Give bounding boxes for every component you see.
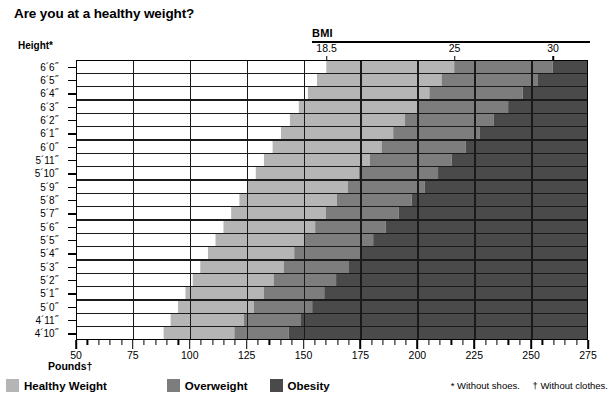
gridline-horizontal bbox=[76, 99, 588, 101]
legend-label: Healthy Weight bbox=[24, 380, 107, 392]
y-axis-label: 5´0˝ bbox=[40, 301, 58, 312]
x-axis-tick-major bbox=[132, 340, 134, 349]
y-axis-labels: 6´6˝6´5˝6´4˝6´3˝6´2˝6´1˝6´0˝5´11˝5´10˝5´… bbox=[0, 0, 72, 400]
y-axis-label: 5´4˝ bbox=[40, 248, 58, 259]
legend-label: Overweight bbox=[185, 380, 248, 392]
x-axis-tick-major bbox=[303, 340, 305, 349]
x-axis-tick-minor bbox=[542, 340, 543, 345]
y-axis-label: 6´2˝ bbox=[40, 115, 58, 126]
gridline-horizontal bbox=[76, 286, 588, 288]
x-axis-tick-minor bbox=[519, 340, 520, 345]
y-axis-tick bbox=[68, 280, 76, 281]
x-axis-tick-minor bbox=[166, 340, 167, 345]
y-axis-label: 6´3˝ bbox=[40, 101, 58, 112]
x-axis-tick-minor bbox=[383, 340, 384, 345]
y-axis-label: 6´6˝ bbox=[40, 61, 58, 72]
legend-item: Healthy Weight bbox=[6, 379, 107, 392]
x-axis-tick-major bbox=[75, 340, 77, 349]
y-axis-label: 5´1˝ bbox=[40, 288, 58, 299]
gridline-vertical bbox=[417, 60, 419, 340]
x-axis-label: 125 bbox=[238, 349, 256, 361]
y-axis-tick bbox=[68, 320, 76, 321]
x-axis-tick-minor bbox=[87, 340, 88, 345]
y-axis-tick bbox=[68, 93, 76, 94]
y-axis-label: 5´8˝ bbox=[40, 195, 58, 206]
x-axis-tick-minor bbox=[269, 340, 270, 345]
x-axis-tick-minor bbox=[496, 340, 497, 345]
legend-swatch bbox=[6, 379, 19, 392]
y-axis-tick bbox=[68, 253, 76, 254]
gridline-vertical bbox=[360, 60, 362, 340]
gridline-horizontal bbox=[76, 153, 588, 155]
x-axis-tick-major bbox=[189, 340, 191, 349]
x-axis-tick-minor bbox=[292, 340, 293, 345]
x-axis-tick-major bbox=[417, 340, 419, 349]
x-axis-tick-minor bbox=[337, 340, 338, 345]
y-axis-label: 6´0˝ bbox=[40, 141, 58, 152]
gridline-vertical bbox=[190, 60, 192, 340]
x-axis-tick-minor bbox=[212, 340, 213, 345]
y-axis-tick bbox=[68, 173, 76, 174]
x-axis-label: 200 bbox=[409, 349, 427, 361]
y-axis-tick bbox=[68, 333, 76, 334]
x-axis-tick-minor bbox=[178, 340, 179, 345]
gridline-horizontal bbox=[76, 259, 588, 261]
legend-item: Obesity bbox=[270, 379, 330, 392]
y-axis-tick bbox=[68, 67, 76, 68]
footnote-shoes: * Without shoes. bbox=[451, 380, 520, 391]
x-axis-label: 75 bbox=[127, 349, 139, 361]
bmi-bands bbox=[76, 60, 588, 340]
y-axis-label: 5´11˝ bbox=[35, 155, 58, 166]
y-axis-label: 5´10˝ bbox=[35, 168, 58, 179]
gridline-horizontal bbox=[76, 206, 588, 208]
x-axis-tick-minor bbox=[348, 340, 349, 345]
legend-swatch bbox=[270, 379, 283, 392]
chart-legend: Healthy WeightOverweightObesity bbox=[6, 379, 356, 392]
gridline-horizontal bbox=[76, 326, 588, 328]
gridline-horizontal bbox=[76, 193, 588, 195]
gridline-vertical bbox=[304, 60, 306, 340]
x-axis-tick-minor bbox=[235, 340, 236, 345]
y-axis-label: 5´5˝ bbox=[40, 235, 58, 246]
y-axis-tick bbox=[68, 187, 76, 188]
y-axis-tick bbox=[68, 213, 76, 214]
y-axis-label: 5´9˝ bbox=[40, 181, 58, 192]
x-axis-tick-minor bbox=[223, 340, 224, 345]
x-axis-tick-minor bbox=[257, 340, 258, 345]
x-axis-tick-minor bbox=[326, 340, 327, 345]
y-axis-tick bbox=[68, 147, 76, 148]
x-axis-tick-major bbox=[360, 340, 362, 349]
bmi-chart-plot-area bbox=[76, 60, 588, 340]
y-axis-tick bbox=[68, 240, 76, 241]
x-axis-tick-minor bbox=[280, 340, 281, 345]
footnotes: * Without shoes. † Without clothes. bbox=[441, 380, 608, 391]
x-axis-tick-minor bbox=[576, 340, 577, 345]
x-axis-tick-minor bbox=[314, 340, 315, 345]
x-axis-tick-minor bbox=[485, 340, 486, 345]
gridline-horizontal bbox=[76, 166, 588, 168]
x-axis-tick-major bbox=[587, 340, 589, 349]
y-axis-label: 5´3˝ bbox=[40, 261, 58, 272]
x-axis-tick-minor bbox=[553, 340, 554, 345]
x-axis-tick-minor bbox=[201, 340, 202, 345]
x-axis-label: 175 bbox=[352, 349, 370, 361]
x-axis-label: 275 bbox=[579, 349, 597, 361]
x-axis-tick-minor bbox=[98, 340, 99, 345]
x-axis-tick-minor bbox=[394, 340, 395, 345]
y-axis-label: 6´5˝ bbox=[40, 75, 58, 86]
y-axis-label: 5´7˝ bbox=[40, 208, 58, 219]
x-axis-tick-minor bbox=[439, 340, 440, 345]
gridline-horizontal bbox=[76, 233, 588, 235]
y-axis-tick bbox=[68, 120, 76, 121]
gridline-horizontal bbox=[76, 73, 588, 75]
x-axis-tick-major bbox=[530, 340, 532, 349]
y-axis-label: 6´4˝ bbox=[40, 88, 58, 99]
legend-swatch bbox=[167, 379, 180, 392]
gridline-horizontal bbox=[76, 86, 588, 88]
gridline-vertical bbox=[531, 60, 533, 340]
y-axis-label: 4´11˝ bbox=[35, 315, 58, 326]
gridline-horizontal bbox=[76, 273, 588, 275]
x-axis-tick-minor bbox=[144, 340, 145, 345]
bmi-tick-label-30: 30 bbox=[547, 42, 559, 54]
x-axis-tick-minor bbox=[565, 340, 566, 345]
